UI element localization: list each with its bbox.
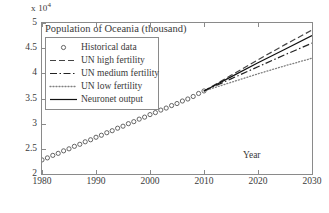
x-tick-mark-top [96,23,97,27]
data-point-marker [56,151,60,155]
data-point-marker [110,129,114,133]
legend-swatch [48,41,79,54]
data-point-marker [164,106,168,110]
legend-item[interactable]: UN medium fertility [48,67,156,80]
page-title: Population of Oceania (thousand) [45,23,186,34]
legend-marker-icon [61,45,65,49]
data-point-marker [143,115,147,119]
x-tick-mark-top [312,23,313,27]
data-point-marker [132,120,136,124]
x-tick-label: 1990 [74,177,118,187]
x-tick-label: 1980 [20,177,64,187]
x-tick-mark [150,170,151,174]
series-un-high-fertility [204,30,312,91]
legend-swatch [48,80,79,93]
y-tick-mark [42,149,46,150]
x-tick-mark-top [204,23,205,27]
legend-label: Neuronet output [79,93,143,106]
x-tick-label: 2010 [182,177,226,187]
y-tick-mark [42,99,46,100]
data-point-marker [159,108,163,112]
data-point-marker [94,135,98,139]
data-point-marker [148,113,152,117]
y-tick-label: 5 [32,18,37,28]
data-point-marker [78,142,82,146]
y-tick-label: 3.5 [25,94,37,104]
x-tick-mark-top [258,23,259,27]
y-axis-exponent-power: 4 [48,1,52,9]
data-point-marker [197,91,201,95]
series-un-medium-fertility [204,43,312,91]
figure-canvas: x 104 22.533.544.55 Population of Oceani… [0,0,329,213]
x-tick-mark [204,170,205,174]
legend-label: UN medium fertility [79,67,159,80]
legend: Historical dataUN high fertilityUN mediu… [45,37,159,110]
data-point-marker [42,158,44,162]
data-point-marker [116,126,120,130]
data-point-marker [45,156,49,160]
data-point-marker [186,97,190,101]
series-line [204,30,312,91]
legend-swatch [48,54,79,67]
data-point-marker [62,149,66,153]
y-tick-label: 3 [32,119,37,129]
x-tick-mark [42,170,43,174]
data-point-marker [67,147,71,151]
legend-label: Historical data [79,41,137,54]
legend-label: UN high fertility [79,54,145,67]
y-tick-label: 4 [32,68,37,78]
data-point-marker [83,140,87,144]
legend-label: UN low fertility [79,80,142,93]
x-tick-mark [312,170,313,174]
data-point-marker [191,94,195,98]
x-tick-mark-top [150,23,151,27]
x-tick-mark [96,170,97,174]
data-point-marker [175,101,179,105]
x-tick-label: 2020 [236,177,280,187]
legend-item[interactable]: Historical data [48,41,156,54]
legend-item[interactable]: UN low fertility [48,80,156,93]
x-tick-mark-top [42,23,43,27]
x-tick-label: 2030 [290,177,329,187]
legend-swatch [48,67,79,80]
y-tick-mark [42,73,46,74]
y-tick-label: 4.5 [25,43,37,53]
data-point-marker [51,153,55,157]
y-tick-mark [42,174,46,175]
legend-swatch [48,93,79,106]
data-point-marker [99,133,103,137]
data-point-marker [72,144,76,148]
data-point-marker [105,131,109,135]
x-axis-label: Year [243,150,261,160]
legend-item[interactable]: Neuronet output [48,93,156,106]
y-tick-mark [42,48,46,49]
x-tick-mark [258,170,259,174]
x-tick-label: 2000 [128,177,172,187]
data-point-marker [137,117,141,121]
series-line [204,43,312,91]
data-point-marker [170,103,174,107]
data-point-marker [121,124,125,128]
legend-item[interactable]: UN high fertility [48,54,156,67]
data-point-marker [153,110,157,114]
y-tick-label: 2.5 [25,144,37,154]
y-tick-mark [42,124,46,125]
data-point-marker [126,122,130,126]
data-point-marker [89,138,93,142]
data-point-marker [180,99,184,103]
